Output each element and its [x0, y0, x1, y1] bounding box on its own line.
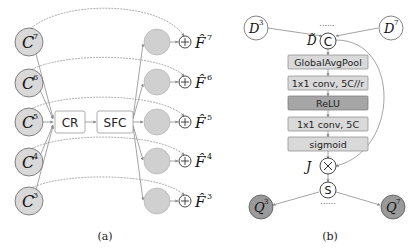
panel-b: D 3 D 7 ...... C D̃ GlobalAvgPool 1x1 co… [244, 16, 405, 243]
svg-text:C: C [324, 35, 332, 49]
svg-text:1x1 conv, 5C//r: 1x1 conv, 5C//r [292, 78, 365, 89]
svg-text:7: 7 [394, 19, 398, 27]
svg-text:7: 7 [33, 32, 38, 41]
layer-global-avg-pool: GlobalAvgPool [288, 55, 368, 69]
svg-text:3: 3 [33, 191, 38, 200]
dots-bottom: ...... [320, 197, 335, 206]
input-node-d7: D 7 [379, 16, 403, 40]
svg-text:6: 6 [207, 73, 212, 82]
layer-conv-expand: 1x1 conv, 5C [288, 117, 368, 131]
j-label: J [303, 159, 312, 174]
svg-text:5: 5 [33, 112, 38, 121]
svg-text:CR: CR [62, 116, 79, 130]
figure: C 7 C 6 C 5 C 4 C 3 CR [0, 0, 417, 250]
svg-text:F̂: F̂ [194, 74, 206, 92]
d-tilde-label: D̃ [306, 33, 317, 48]
input-node-c3: C 3 [15, 187, 43, 215]
svg-text:1x1 conv, 5C: 1x1 conv, 5C [297, 119, 359, 130]
svg-text:F̂: F̂ [194, 114, 206, 132]
svg-text:7: 7 [207, 33, 212, 42]
output-node-q3: Q 3 [249, 195, 273, 219]
caption-a: (a) [97, 230, 112, 243]
svg-text:F̂: F̂ [194, 34, 206, 52]
output-labels: F̂ 7 F̂ 6 F̂ 5 F̂ 4 F̂ 3 [194, 33, 212, 211]
layer-relu: ReLU [288, 96, 368, 110]
sfc-block: SFC [97, 111, 133, 133]
svg-text:GlobalAvgPool: GlobalAvgPool [294, 57, 362, 68]
layer-conv-reduce: 1x1 conv, 5C//r [288, 76, 368, 90]
refined-nodes [144, 29, 170, 214]
svg-text:7: 7 [396, 198, 400, 206]
svg-text:6: 6 [33, 73, 38, 82]
input-node-c4: C 4 [15, 148, 43, 176]
dots-top: ...... [319, 19, 334, 28]
multiply-node [320, 158, 336, 174]
output-node-q7: Q 7 [381, 195, 405, 219]
svg-text:ReLU: ReLU [316, 98, 340, 109]
svg-text:3: 3 [259, 19, 263, 27]
input-node-d3: D 3 [244, 16, 268, 40]
input-node-c5: C 5 [15, 108, 43, 136]
caption-b: (b) [322, 230, 338, 243]
svg-text:5: 5 [207, 113, 212, 122]
svg-text:4: 4 [33, 152, 38, 161]
svg-text:4: 4 [207, 152, 212, 161]
svg-text:F̂: F̂ [194, 153, 206, 171]
split-node: S [320, 182, 336, 198]
input-node-c6: C 6 [15, 69, 43, 97]
svg-text:F̂: F̂ [194, 193, 206, 211]
input-node-c7: C 7 [15, 28, 43, 56]
panel-a: C 7 C 6 C 5 C 4 C 3 CR [15, 8, 212, 243]
svg-text:3: 3 [264, 198, 268, 206]
svg-text:sigmoid: sigmoid [309, 139, 346, 150]
layer-sigmoid: sigmoid [288, 137, 368, 151]
svg-text:S: S [325, 184, 332, 197]
panel-b-lines [268, 28, 384, 205]
cr-block: CR [55, 111, 85, 133]
svg-text:3: 3 [207, 192, 212, 201]
concat-node: C [320, 33, 336, 49]
svg-text:SFC: SFC [104, 116, 127, 130]
